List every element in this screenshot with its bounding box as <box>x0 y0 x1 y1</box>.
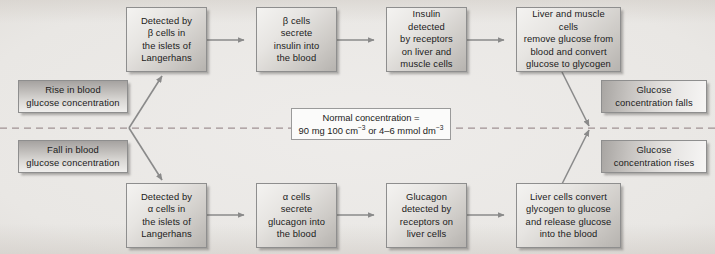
step-detect-alpha-line-4: Langerhans <box>138 228 195 240</box>
outcome-rises-line-1: Glucose <box>611 144 698 156</box>
step-store-glycogen[interactable]: Liver and muscle cells remove glucose fr… <box>516 7 621 72</box>
step-detect-beta-line-1: Detected by <box>138 15 195 27</box>
outcome-glucose-concentration-rises[interactable]: Glucose concentration rises <box>601 140 707 173</box>
step-release-glucose[interactable]: Liver cells convert glycogen to glucose … <box>516 183 621 248</box>
step-release-glucose-line-1: Liver cells convert <box>523 191 615 203</box>
step-secrete-insulin-line-1: β cells <box>271 15 323 27</box>
step-release-glucose-line-4: into the blood <box>523 228 615 240</box>
norm-sup-1: −3 <box>358 124 366 131</box>
step-release-glucose-line-3: and release glucose <box>523 216 615 228</box>
step-secrete-glucagon-line-2: secrete <box>265 203 328 215</box>
step-detect-alpha-line-3: the islets of <box>138 216 195 228</box>
step-detect-beta-line-2: β cells in <box>138 27 195 39</box>
step-secrete-glucagon-line-3: glucagon into <box>265 216 328 228</box>
step-glucagon-receptors[interactable]: Glucagon detected by receptors on liver … <box>386 183 467 248</box>
step-secrete-insulin-line-3: insulin into <box>271 40 323 52</box>
outcome-rises-line-2: concentration rises <box>611 157 698 169</box>
stimulus-rise-line-1: Rise in blood <box>23 84 122 96</box>
step-glucagon-receptors-line-4: liver cells <box>397 228 456 240</box>
step-release-glucose-line-2: glycogen to glucose <box>523 203 615 215</box>
step-secrete-insulin-line-4: the blood <box>271 52 323 64</box>
step-insulin-receptors[interactable]: Insulin detected by receptors on liver a… <box>386 7 467 72</box>
step-secrete-glucagon-line-1: α cells <box>265 191 328 203</box>
norm-prefix: 90 mg 100 cm <box>299 125 358 136</box>
step-secrete-insulin[interactable]: β cells secrete insulin into the blood <box>256 7 337 72</box>
stimulus-fall-line-2: glucose concentration <box>23 157 122 169</box>
step-detect-beta-line-3: the islets of <box>138 40 195 52</box>
step-secrete-insulin-line-2: secrete <box>271 27 323 39</box>
step-detect-alpha[interactable]: Detected by α cells in the islets of Lan… <box>126 183 207 248</box>
step-detect-alpha-line-2: α cells in <box>138 203 195 215</box>
step-secrete-glucagon-line-4: the blood <box>265 228 328 240</box>
step-secrete-glucagon[interactable]: α cells secrete glucagon into the blood <box>256 183 337 248</box>
outcome-glucose-concentration-falls[interactable]: Glucose concentration falls <box>601 80 707 113</box>
step-glucagon-receptors-line-2: detected by <box>397 203 456 215</box>
norm-sup-2: −3 <box>436 124 444 131</box>
diagram-canvas: Detected by β cells in the islets of Lan… <box>0 0 715 254</box>
step-glucagon-receptors-line-3: receptors on <box>397 216 456 228</box>
step-detect-beta-line-4: Langerhans <box>138 52 195 64</box>
step-insulin-receptors-line-3: on liver and <box>390 46 463 58</box>
stimulus-rise-in-blood-glucose[interactable]: Rise in blood glucose concentration <box>18 80 128 113</box>
step-store-glycogen-line-3: blood and convert <box>520 46 617 58</box>
step-store-glycogen-line-2: remove glucose from <box>520 33 617 45</box>
stimulus-rise-line-2: glucose concentration <box>23 97 122 109</box>
step-store-glycogen-line-4: glucose to glycogen <box>520 58 617 70</box>
arrow-glycogen-to-falls <box>562 72 589 126</box>
normal-concentration-label: Normal concentration = 90 mg 100 cm−3 or… <box>291 108 451 140</box>
norm-mid: or 4–6 mmol dm <box>366 125 436 136</box>
outcome-falls-line-1: Glucose <box>612 84 695 96</box>
arrow-fall-to-alpha <box>129 128 162 180</box>
step-detect-beta[interactable]: Detected by β cells in the islets of Lan… <box>126 7 207 72</box>
step-store-glycogen-line-1: Liver and muscle cells <box>520 8 617 33</box>
outcome-falls-line-2: concentration falls <box>612 97 695 109</box>
step-insulin-receptors-line-2: by receptors <box>390 33 463 45</box>
stimulus-fall-line-1: Fall in blood <box>23 144 122 156</box>
normal-concentration-line-1: Normal concentration = <box>299 111 444 124</box>
step-insulin-receptors-line-4: muscle cells <box>390 58 463 70</box>
step-insulin-receptors-line-1: Insulin detected <box>390 8 463 33</box>
arrow-rise-to-beta <box>129 76 162 128</box>
stimulus-fall-in-blood-glucose[interactable]: Fall in blood glucose concentration <box>18 140 128 173</box>
step-glucagon-receptors-line-1: Glucagon <box>397 191 456 203</box>
normal-concentration-line-2: 90 mg 100 cm−3 or 4–6 mmol dm−3 <box>299 124 444 137</box>
arrow-release-to-rises <box>562 130 589 184</box>
step-detect-alpha-line-1: Detected by <box>138 191 195 203</box>
